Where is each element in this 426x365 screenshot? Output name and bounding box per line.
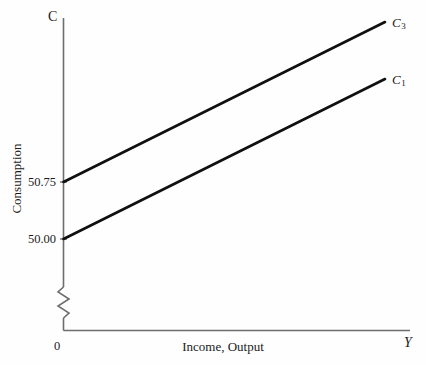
- y-axis-title: Consumption: [10, 119, 23, 239]
- chart-figure: C Y 50.75 50.00 0 Income, Output Consump…: [0, 0, 426, 365]
- series-label-c3: C3: [392, 16, 405, 29]
- series-label-c1: C1: [392, 73, 405, 86]
- series-label-c1-base: C: [392, 72, 401, 87]
- x-axis-title: Income, Output: [0, 340, 426, 353]
- series-label-c1-subscript: 1: [401, 78, 406, 88]
- y-axis-break-zigzag-icon: [58, 287, 69, 318]
- series-label-c3-base: C: [392, 15, 401, 30]
- series-label-c3-subscript: 3: [401, 21, 406, 31]
- chart-plot-area: [0, 0, 426, 365]
- y-axis-symbol: C: [48, 10, 57, 24]
